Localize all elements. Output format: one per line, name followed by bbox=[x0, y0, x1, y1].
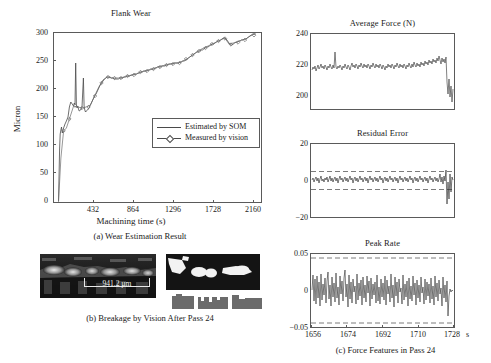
residual-error-title: Residual Error bbox=[310, 128, 455, 138]
legend-line-diamond-icon bbox=[157, 133, 181, 143]
tickmark-x bbox=[213, 200, 214, 203]
tickmark-y bbox=[53, 88, 56, 89]
panel-residual-error: Residual Error 20 0 −20 bbox=[280, 128, 491, 228]
ytick-200: 200 bbox=[0, 84, 48, 93]
tickmark-x bbox=[453, 325, 454, 328]
ytick-50: 50 bbox=[0, 168, 48, 177]
breakage-profile-2 bbox=[198, 293, 228, 309]
legend-label: Measured by vision bbox=[185, 133, 248, 142]
tickmark-y bbox=[53, 172, 56, 173]
breakage-binary-image bbox=[166, 254, 260, 290]
breakage-profile-1 bbox=[172, 293, 194, 309]
tickmark-x bbox=[346, 325, 347, 328]
ytick-240: 240 bbox=[280, 29, 308, 38]
caption-b: (b) Breakage by Vision After Pass 24 bbox=[20, 313, 280, 323]
flank-wear-xlabel: Machining time (s) bbox=[0, 216, 262, 226]
tickmark-y bbox=[53, 202, 56, 203]
caption-c: (c) Force Features in Pass 24 bbox=[280, 345, 491, 355]
tickmark-y bbox=[53, 116, 56, 117]
scale-bar-label: 941.2 µm bbox=[84, 279, 150, 288]
xtick-432: 432 bbox=[87, 205, 99, 214]
average-force-trace bbox=[311, 34, 454, 109]
xtick-864: 864 bbox=[127, 205, 139, 214]
ytick-005: 0.05 bbox=[280, 249, 308, 258]
xtick-1692: 1692 bbox=[375, 330, 391, 339]
legend-item-measured: Measured by vision bbox=[157, 132, 255, 143]
breakage-grayscale-image: 941.2 µm bbox=[40, 254, 156, 298]
tickmark-y bbox=[53, 60, 56, 61]
ytick-neg005: −0.05 bbox=[280, 323, 308, 332]
average-force-plot-area bbox=[310, 33, 455, 110]
panel-peak-rate: Peak Rate 0.05 0 −0.05 1656 1674 1692 17… bbox=[280, 238, 491, 358]
tickmark-x bbox=[133, 200, 134, 203]
xaxis-unit: s bbox=[466, 330, 469, 339]
panel-average-force: Average Force (N) 240 220 200 bbox=[280, 18, 491, 118]
ytick-100: 100 bbox=[0, 140, 48, 149]
tickmark-x bbox=[418, 325, 419, 328]
xtick-1728: 1728 bbox=[205, 205, 221, 214]
ytick-20: 20 bbox=[280, 139, 308, 148]
xtick-1710: 1710 bbox=[410, 330, 426, 339]
tickmark-y bbox=[53, 32, 56, 33]
tickmark-x bbox=[311, 325, 312, 328]
xtick-1656: 1656 bbox=[305, 330, 321, 339]
peak-rate-trace bbox=[311, 254, 454, 327]
breakage-profile-3 bbox=[232, 293, 262, 309]
xtick-1728: 1728 bbox=[444, 330, 460, 339]
figure-root: Flank Wear Micron 300 250 200 150 100 50… bbox=[0, 0, 491, 363]
residual-error-trace bbox=[311, 144, 454, 217]
tickmark-y bbox=[53, 144, 56, 145]
xtick-1674: 1674 bbox=[340, 330, 356, 339]
ytick-150: 150 bbox=[0, 112, 48, 121]
flank-wear-legend[interactable]: Estimated by SOM Measured by vision bbox=[152, 118, 260, 148]
legend-item-estimated: Estimated by SOM bbox=[157, 121, 255, 132]
ytick-neg20: −20 bbox=[280, 213, 308, 222]
legend-label: Estimated by SOM bbox=[185, 122, 246, 131]
average-force-title: Average Force (N) bbox=[310, 18, 455, 28]
panel-flank-wear: Flank Wear Micron 300 250 200 150 100 50… bbox=[0, 8, 280, 243]
ytick-220: 220 bbox=[280, 60, 308, 69]
tickmark-x bbox=[382, 325, 383, 328]
ytick-300: 300 bbox=[0, 28, 48, 37]
tickmark-x bbox=[93, 200, 94, 203]
residual-error-plot-area bbox=[310, 143, 455, 218]
ytick-0: 0 bbox=[280, 286, 308, 295]
legend-line-icon bbox=[157, 122, 181, 132]
ytick-200: 200 bbox=[280, 91, 308, 100]
xtick-1296: 1296 bbox=[165, 205, 181, 214]
flank-wear-title: Flank Wear bbox=[0, 8, 262, 18]
ytick-0: 0 bbox=[0, 196, 48, 205]
ytick-0: 0 bbox=[280, 176, 308, 185]
tickmark-x bbox=[253, 200, 254, 203]
tickmark-x bbox=[173, 200, 174, 203]
caption-a: (a) Wear Estimation Result bbox=[0, 231, 280, 241]
peak-rate-plot-area bbox=[310, 253, 455, 328]
ytick-250: 250 bbox=[0, 56, 48, 65]
xtick-2160: 2160 bbox=[245, 205, 261, 214]
panel-breakage: 941.2 µm bbox=[20, 250, 280, 330]
peak-rate-title: Peak Rate bbox=[310, 238, 455, 248]
